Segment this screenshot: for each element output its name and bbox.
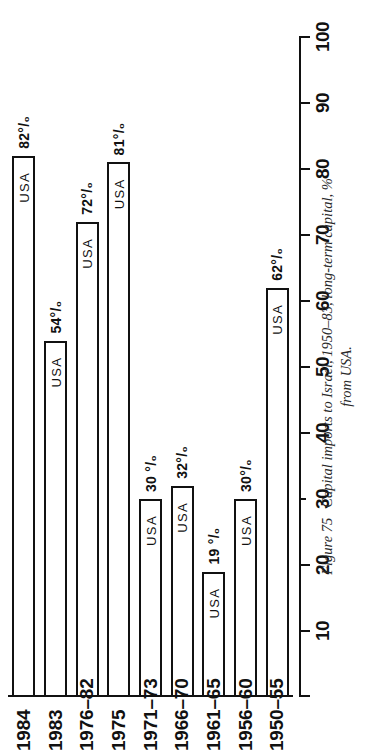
axis-tick <box>299 630 310 632</box>
bar: USA <box>44 341 67 697</box>
bar-series-label: USA <box>270 304 285 335</box>
bar-series-label: USA <box>238 515 253 546</box>
bar-series-label: USA <box>16 172 31 203</box>
figure-page: USA62°/₀USA30°/₀USA19 °/₀USA32°/₀USA30 °… <box>0 0 373 753</box>
category-label: 1976–82 <box>76 678 98 751</box>
axis-tick <box>299 300 310 302</box>
bar-value-label: 19 °/₀ <box>206 528 222 565</box>
bar-row: USA32°/₀ <box>171 37 194 697</box>
caption-line-2: from USA. <box>338 346 354 407</box>
bar-value-label: 30 °/₀ <box>143 455 159 492</box>
axis-tick <box>299 432 310 434</box>
bar-row: USA30 °/₀ <box>139 37 162 697</box>
plot-area: USA62°/₀USA30°/₀USA19 °/₀USA32°/₀USA30 °… <box>8 37 293 697</box>
axis-tick <box>299 234 310 236</box>
category-label: 1950–55 <box>266 678 288 751</box>
bar-value-label: 62°/₀ <box>269 248 285 281</box>
figure-caption: Figure 75Capital imports to Israel, 1950… <box>318 0 356 753</box>
bar-value-label: 32°/₀ <box>174 446 190 479</box>
bar: USA <box>12 156 35 697</box>
bar-value-label: 30°/₀ <box>238 459 254 492</box>
bar-row: USA62°/₀ <box>266 37 289 697</box>
axis-tick <box>299 36 310 38</box>
bar-row: USA82°/₀ <box>12 37 35 697</box>
bar-value-label: 54°/₀ <box>48 301 64 334</box>
bar-row: USA19 °/₀ <box>202 37 225 697</box>
bar: USA <box>266 288 289 697</box>
bar-row: USA30°/₀ <box>234 37 257 697</box>
axis-tick <box>299 168 310 170</box>
bar-value-label: 82°/₀ <box>16 116 32 149</box>
bar-series-label: USA <box>111 178 126 209</box>
bar-chart-figure: USA62°/₀USA30°/₀USA19 °/₀USA32°/₀USA30 °… <box>0 0 373 753</box>
rotated-figure-container: USA62°/₀USA30°/₀USA19 °/₀USA32°/₀USA30 °… <box>0 0 373 753</box>
category-label: 1984 <box>13 710 35 751</box>
axis-tick <box>299 498 306 500</box>
bar: USA <box>76 222 99 697</box>
bar-row: USA81°/₀ <box>107 37 130 697</box>
bar-series-label: USA <box>206 588 221 619</box>
bar: USA <box>107 162 130 697</box>
category-label: 1966–70 <box>171 678 193 751</box>
bar: USA <box>139 499 162 697</box>
bar-series-label: USA <box>80 238 95 269</box>
category-label: 1975 <box>108 710 130 751</box>
axis-end-cap <box>299 695 310 697</box>
bar-row: USA54°/₀ <box>44 37 67 697</box>
category-label: 1956–60 <box>235 678 257 751</box>
axis-tick <box>299 102 310 104</box>
category-label: 1971–73 <box>140 678 162 751</box>
axis-tick <box>299 366 310 368</box>
bar-series-label: USA <box>175 502 190 533</box>
bar-series-label: USA <box>48 357 63 388</box>
bar: USA <box>234 499 257 697</box>
category-label: 1961–65 <box>203 678 225 751</box>
bar-row: USA72°/₀ <box>76 37 99 697</box>
bar-series-label: USA <box>143 515 158 546</box>
bar-value-label: 72°/₀ <box>79 182 95 215</box>
caption-number: Figure 75 <box>319 518 335 575</box>
category-label: 1983 <box>45 710 67 751</box>
axis-tick <box>299 564 310 566</box>
bar: USA <box>171 486 194 697</box>
bar-value-label: 81°/₀ <box>111 123 127 156</box>
caption-line-1: Capital imports to Israel, 1950–83, long… <box>319 178 335 507</box>
